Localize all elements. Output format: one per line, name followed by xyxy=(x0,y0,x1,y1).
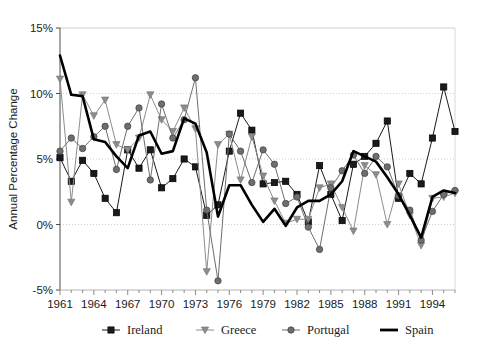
data-point xyxy=(170,135,176,141)
legend-label: Greece xyxy=(221,323,257,337)
x-tick-label: 1973 xyxy=(183,298,209,310)
x-tick-label: 1991 xyxy=(386,298,412,310)
data-point xyxy=(113,210,119,216)
data-point xyxy=(339,217,345,223)
legend-marker-swatch xyxy=(288,327,294,333)
data-point xyxy=(316,246,322,252)
data-point xyxy=(452,128,458,134)
data-point xyxy=(283,178,289,184)
data-point xyxy=(226,131,232,137)
data-point xyxy=(215,278,221,284)
data-point xyxy=(362,170,368,176)
y-tick-label: -5% xyxy=(33,284,53,296)
data-point xyxy=(384,118,390,124)
x-tick-label: 1961 xyxy=(47,298,73,310)
data-point xyxy=(226,148,232,154)
y-tick-label: 0% xyxy=(36,219,53,231)
y-tick-label: 10% xyxy=(30,88,53,100)
data-point xyxy=(237,148,243,154)
data-point xyxy=(113,166,119,172)
data-point xyxy=(407,170,413,176)
data-point xyxy=(294,194,300,200)
data-point xyxy=(170,176,176,182)
legend-label: Portugal xyxy=(307,323,350,337)
data-point xyxy=(158,101,164,107)
data-point xyxy=(79,145,85,151)
data-point xyxy=(373,153,379,159)
data-point xyxy=(350,161,356,167)
data-point xyxy=(181,156,187,162)
legend-marker-swatch xyxy=(108,327,114,333)
data-point xyxy=(102,195,108,201)
x-tick-label: 1967 xyxy=(115,298,141,310)
data-point xyxy=(429,135,435,141)
data-point xyxy=(204,207,210,213)
data-point xyxy=(316,162,322,168)
annual-percentage-change-line-chart: 15%10%5%0%-5% 19611964196719701973197619… xyxy=(0,0,485,354)
data-point xyxy=(57,148,63,154)
legend-label: Spain xyxy=(405,323,434,337)
data-point xyxy=(249,179,255,185)
x-tick-label: 1985 xyxy=(318,298,344,310)
x-tick-label: 1964 xyxy=(81,298,107,310)
data-point xyxy=(147,147,153,153)
data-point xyxy=(125,123,131,129)
data-point xyxy=(68,135,74,141)
data-point xyxy=(384,164,390,170)
data-point xyxy=(271,161,277,167)
data-point xyxy=(271,179,277,185)
chart-container: 15%10%5%0%-5% 19611964196719701973197619… xyxy=(0,0,485,354)
data-point xyxy=(91,170,97,176)
x-tick-label: 1979 xyxy=(250,298,276,310)
y-tick-label: 15% xyxy=(30,22,53,34)
x-tick-label: 1988 xyxy=(352,298,378,310)
data-point xyxy=(283,200,289,206)
data-point xyxy=(192,164,198,170)
data-point xyxy=(136,105,142,111)
x-tick-label: 1982 xyxy=(284,298,310,310)
data-point xyxy=(260,147,266,153)
x-tick-label: 1976 xyxy=(216,298,242,310)
data-point xyxy=(192,75,198,81)
data-point xyxy=(418,181,424,187)
data-point xyxy=(57,155,63,161)
data-point xyxy=(79,157,85,163)
data-point xyxy=(441,84,447,90)
data-point xyxy=(102,123,108,129)
y-axis-title: Annual Percentage Change xyxy=(7,88,19,229)
x-tick-label: 1970 xyxy=(149,298,175,310)
legend-label: Ireland xyxy=(127,323,163,337)
data-point xyxy=(249,127,255,133)
data-point xyxy=(373,140,379,146)
data-point xyxy=(237,110,243,116)
y-tick-label: 5% xyxy=(36,153,53,165)
data-point xyxy=(305,224,311,230)
data-point xyxy=(136,165,142,171)
data-point xyxy=(158,185,164,191)
x-tick-label: 1994 xyxy=(420,298,446,310)
data-point xyxy=(147,177,153,183)
